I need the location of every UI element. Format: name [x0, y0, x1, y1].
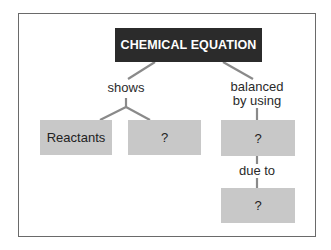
title-text: CHEMICAL EQUATION: [121, 38, 257, 52]
link-label-shows: shows: [106, 81, 146, 95]
title-node: CHEMICAL EQUATION: [115, 28, 262, 62]
link-label-due-to: due to: [232, 164, 282, 178]
node-unknown-left-text: ?: [161, 130, 168, 145]
connector-shows-to-reactants: [100, 107, 126, 120]
connector-title-to-balanced: [223, 62, 253, 79]
node-reactants: Reactants: [40, 120, 112, 155]
node-unknown-bottom: ?: [221, 188, 295, 223]
node-unknown-right: ?: [221, 120, 295, 156]
connector-shows-to-unknown: [126, 107, 150, 120]
link-label-balanced: balanced by using: [225, 80, 289, 108]
node-unknown-right-text: ?: [254, 131, 261, 146]
connector-title-to-shows: [128, 62, 155, 79]
link-label-balanced-line1: balanced: [225, 80, 289, 94]
node-reactants-text: Reactants: [47, 130, 106, 145]
node-unknown-left: ?: [128, 120, 201, 155]
link-label-balanced-line2: by using: [225, 94, 289, 108]
node-unknown-bottom-text: ?: [254, 198, 261, 213]
